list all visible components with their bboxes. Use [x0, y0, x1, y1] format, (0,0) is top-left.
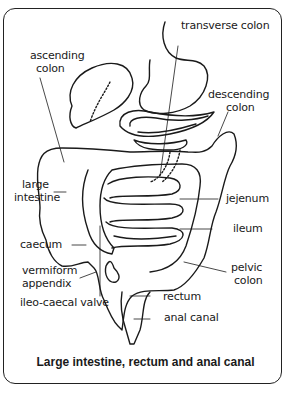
- label-ileum: ileum: [233, 222, 263, 235]
- diagram-caption: Large intestine, rectum and anal canal: [0, 355, 291, 369]
- small-intestine-coil-1: [108, 177, 180, 198]
- transverse-colon-inner-3: [134, 140, 187, 150]
- small-intestine-coil-3: [106, 222, 183, 248]
- label-descending-colon-line1: descending: [208, 88, 269, 101]
- label-rectum: rectum: [163, 290, 201, 303]
- label-caecum: caecum: [20, 238, 62, 251]
- rectum-shape: [121, 292, 150, 344]
- label-vermiform-appendix-line1: vermiform: [22, 264, 77, 277]
- label-ascending-colon-line2: colon: [36, 62, 65, 75]
- label-transverse-colon: transverse colon: [181, 19, 269, 32]
- label-jejenum: jejenum: [226, 192, 269, 205]
- stomach-shape: [140, 22, 208, 113]
- label-ascending-colon-line1: ascending: [30, 49, 84, 62]
- appendix-shape: [105, 262, 119, 283]
- label-large-intestine-line2: intestine: [14, 191, 60, 204]
- label-descending-colon-line2: colon: [226, 101, 255, 114]
- label-large-intestine-line1: large: [22, 178, 49, 191]
- small-intestine-coil-2: [104, 198, 183, 222]
- small-intestine-coil-4: [114, 236, 176, 239]
- liver-shape: [70, 63, 133, 128]
- label-pelvic-colon-line1: pelvic: [231, 261, 262, 274]
- dotted-vessel-left: [90, 82, 110, 122]
- label-ileo-caecal-valve: ileo-caecal valve: [20, 296, 109, 309]
- label-vermiform-appendix-line2: appendix: [22, 277, 71, 290]
- label-pelvic-colon-line2: colon: [234, 274, 263, 287]
- label-anal-canal: anal canal: [164, 311, 219, 324]
